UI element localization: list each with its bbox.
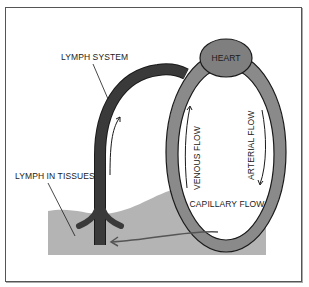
lymph-in-tissues-label: LYMPH IN TISSUES <box>15 171 95 181</box>
blood-circulation-loop <box>166 52 286 252</box>
arterial-flow-label: ARTERIAL FLOW <box>246 111 256 180</box>
circulation-diagram: HEART LYMPH SYSTEM VENOUS FLOW ARTERIAL … <box>0 0 309 287</box>
lymph-system-leader-line <box>93 64 108 99</box>
venous-flow-label: VENOUS FLOW <box>192 126 202 190</box>
lymph-system-label: LYMPH SYSTEM <box>61 52 128 62</box>
heart-label: HEART <box>211 53 240 63</box>
capillary-flow-label: CAPILLARY FLOW <box>190 199 265 209</box>
lymph-flow-arrow-icon <box>110 117 120 175</box>
